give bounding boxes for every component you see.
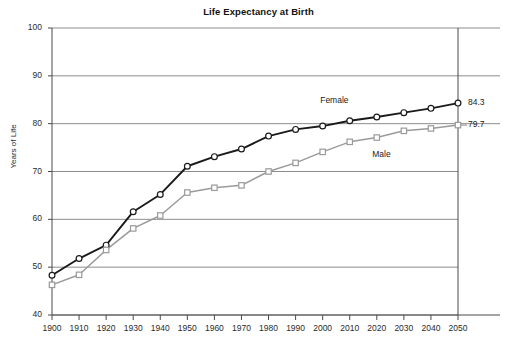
data-point-female [130,209,136,215]
end-value-female: 84.3 [468,97,485,107]
series-label-male: Male [372,149,390,159]
data-point-male [76,272,81,277]
plot-area [0,0,517,340]
series-line-female [52,103,458,275]
life-expectancy-chart: Life Expectancy at Birth Years of Life 1… [0,0,517,340]
data-point-male [103,247,108,252]
data-point-male [239,183,244,188]
data-point-male [293,160,298,165]
data-point-male [158,213,163,218]
data-point-female [347,118,353,124]
data-point-male [49,282,54,287]
data-point-female [401,110,407,116]
series-line-male [52,125,458,285]
data-point-female [212,154,218,160]
data-point-female [239,146,245,152]
data-point-female [184,163,190,169]
series-lines [52,103,458,285]
data-point-male [347,139,352,144]
series-markers [49,100,461,287]
data-point-female [293,127,299,133]
data-point-male [374,135,379,140]
data-point-male [320,149,325,154]
gridlines [48,28,500,315]
end-value-male: 79.7 [468,119,485,129]
data-point-female [76,256,82,262]
data-point-male [401,128,406,133]
x-axis-ticks [52,315,458,320]
data-point-female [266,133,272,139]
data-point-male [131,226,136,231]
data-point-male [266,169,271,174]
data-point-female [49,272,55,278]
data-point-male [185,190,190,195]
data-point-male [428,126,433,131]
data-point-female [455,100,461,106]
data-point-male [212,185,217,190]
series-label-female: Female [320,95,348,105]
data-point-female [157,192,163,198]
data-point-female [320,123,326,129]
data-point-male [455,122,460,127]
data-point-female [428,105,434,111]
data-point-female [374,114,380,120]
